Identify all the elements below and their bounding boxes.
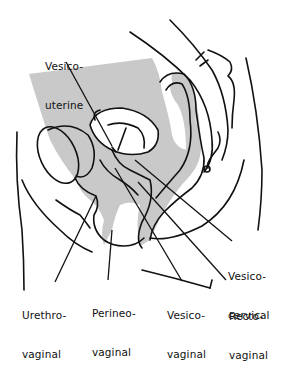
label-recto-vaginal: Recto- vaginal [229,284,268,365]
label-line: vaginal [167,348,206,361]
buttock-outline [246,58,262,230]
label-vesico-uterine: Vesico- uterine [45,34,83,138]
label-line: Urethro- [22,309,66,322]
leader-urethro-vaginal [55,196,96,282]
label-line: vaginal [92,346,136,359]
leader-perineo-vaginal [108,230,112,280]
label-line: uterine [45,99,83,112]
label-line: Vesico- [45,60,83,73]
label-line: vaginal [229,349,268,362]
label-line: Vesico- [167,309,206,322]
label-line: Recto- [229,310,268,323]
label-perineo-vaginal: Perineo- vaginal [92,281,136,365]
label-line: vaginal [22,348,66,361]
abdominal-wall [17,132,24,290]
label-line: Vesico- [228,270,270,283]
label-line: Perineo- [92,307,136,320]
label-vesico-vaginal: Vesico- vaginal [167,283,206,365]
label-urethro-vaginal: Urethro- vaginal [22,283,66,365]
